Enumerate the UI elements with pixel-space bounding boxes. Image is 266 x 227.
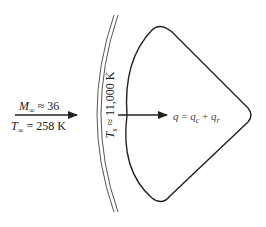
shock-layer-temperature-label: Ts ≈ 11,000 K bbox=[104, 72, 116, 139]
mach-subscript: ∞ bbox=[29, 106, 35, 115]
shock-temp-value: ≈ 11,000 K bbox=[103, 72, 117, 129]
temp-value: = 258 K bbox=[23, 119, 65, 133]
temp-subscript: ∞ bbox=[18, 126, 24, 135]
diagram-graphics bbox=[0, 0, 266, 227]
freestream-temperature-label: T∞ = 258 K bbox=[11, 120, 66, 132]
equals-sign: = bbox=[179, 110, 191, 122]
qr-subscript: r bbox=[217, 116, 220, 125]
shock-temp-symbol: T bbox=[103, 132, 117, 139]
qr-symbol: q bbox=[211, 110, 217, 122]
temp-symbol: T bbox=[11, 119, 18, 133]
heat-flux-equation: q = qc + qr bbox=[173, 111, 220, 122]
mach-value: ≈ 36 bbox=[35, 99, 60, 113]
reentry-diagram: M∞ ≈ 36 T∞ = 258 K Ts ≈ 11,000 K q = qc … bbox=[0, 0, 266, 227]
shock-temp-subscript: s bbox=[110, 129, 119, 132]
mach-symbol: M bbox=[19, 99, 29, 113]
plus-sign: + bbox=[199, 110, 211, 122]
qc-subscript: c bbox=[196, 116, 200, 125]
freestream-mach-label: M∞ ≈ 36 bbox=[19, 100, 59, 112]
qc-symbol: q bbox=[190, 110, 196, 122]
